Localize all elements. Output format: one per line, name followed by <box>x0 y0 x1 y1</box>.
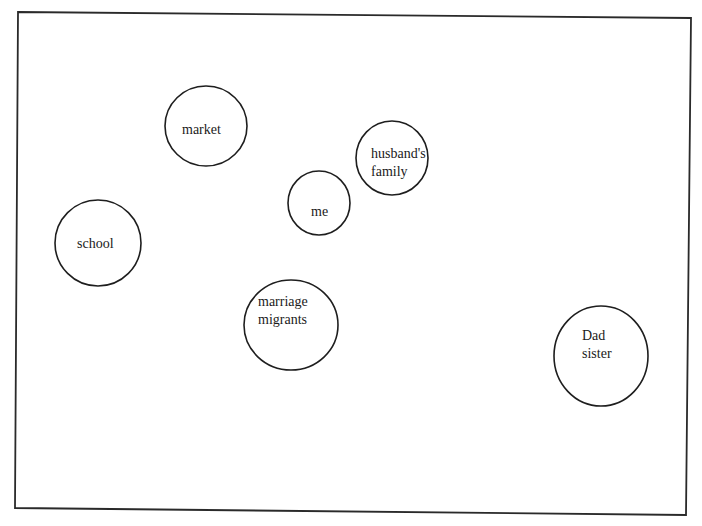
node-label-line: market <box>182 122 221 137</box>
node-label-line: marriage <box>258 294 308 309</box>
diagram-canvas: markethusband'sfamilymeschoolmarriagemig… <box>0 0 702 526</box>
node-label-line: migrants <box>258 312 307 327</box>
node-label-line: school <box>77 236 114 251</box>
node-label: me <box>311 204 328 219</box>
node-label: school <box>77 236 114 251</box>
node-label: market <box>182 122 221 137</box>
node-label-line: me <box>311 204 328 219</box>
node-label-line: husband's <box>371 146 426 161</box>
node-label-line: sister <box>582 346 612 361</box>
diagram-frame <box>15 12 691 515</box>
node-label-line: family <box>371 164 408 179</box>
node-label-line: Dad <box>582 328 605 343</box>
